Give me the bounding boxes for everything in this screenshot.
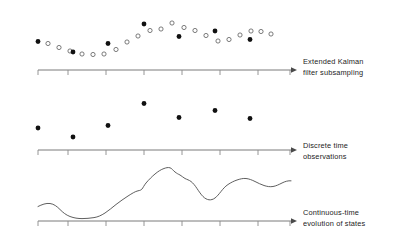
panel-label-ekf-line2: filter subsampling bbox=[303, 67, 393, 78]
panel-label-continuous-line1: Continuous-time bbox=[303, 208, 359, 217]
label-continuous-wrapper: Continuous-time evolution of states bbox=[303, 207, 393, 235]
panel-label-discrete: Discrete time observations bbox=[303, 140, 393, 163]
panel-label-ekf-line1: Extended Kalman bbox=[303, 57, 364, 66]
panel-label-discrete-line2: observations bbox=[303, 151, 393, 162]
panel-label-ekf: Extended Kalman filter subsampling bbox=[303, 56, 393, 79]
panel-label-continuous: Continuous-time evolution of states bbox=[303, 207, 393, 230]
label-discrete-wrapper: Discrete time observations bbox=[303, 140, 393, 168]
estimation-timing-figure: Extended Kalman filter subsampling bbox=[0, 0, 393, 248]
panel-label-discrete-line1: Discrete time bbox=[303, 141, 348, 150]
panel-label-continuous-line2: evolution of states bbox=[303, 218, 393, 229]
label-ekf-wrapper: Extended Kalman filter subsampling bbox=[303, 56, 393, 84]
